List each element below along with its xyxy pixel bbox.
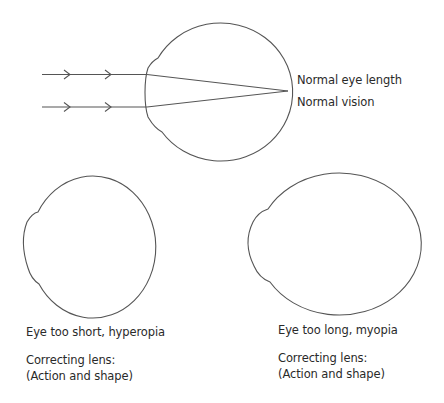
myopia-label: Eye too long, myopia xyxy=(278,322,398,338)
myopia-lens-hint: (Action and shape) xyxy=(278,366,385,382)
short-eye-outline xyxy=(23,176,155,318)
hyperopia-label: Eye too short, hyperopia xyxy=(26,324,165,340)
long-eye-outline xyxy=(248,173,421,315)
refracted-ray-bottom xyxy=(147,91,288,107)
eye-vision-diagram: Normal eye length Normal vision Eye too … xyxy=(0,0,444,403)
normal-eye-length-label: Normal eye length xyxy=(297,72,402,88)
hyperopia-lens-hint: (Action and shape) xyxy=(26,368,133,384)
myopia-lens-label: Correcting lens: xyxy=(278,350,367,366)
refracted-ray-top xyxy=(147,75,288,92)
normal-vision-label: Normal vision xyxy=(297,94,374,110)
diagram-drawing xyxy=(0,0,444,403)
normal-eye-outline xyxy=(145,23,293,161)
hyperopia-lens-label: Correcting lens: xyxy=(26,352,115,368)
